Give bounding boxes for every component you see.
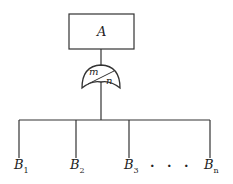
gate-m-label: m: [89, 66, 98, 77]
fault-tree: [0, 0, 233, 184]
input-bn: Bn: [204, 157, 219, 175]
gate-n-label: n: [106, 75, 112, 86]
input-b1: B1: [14, 157, 29, 175]
input-b3: B3: [124, 157, 139, 175]
top-event-label: A: [97, 24, 106, 39]
input-b2: B2: [70, 157, 85, 175]
ellipsis: . . .: [150, 155, 193, 170]
